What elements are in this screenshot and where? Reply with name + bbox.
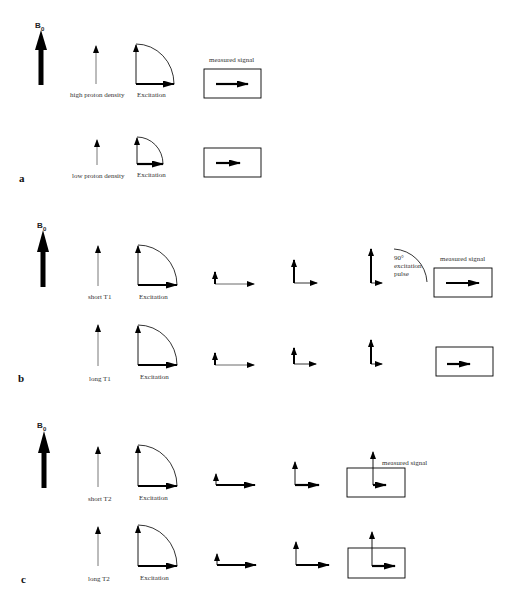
excitation-quarter-arc (138, 525, 177, 566)
row-short-t1: short T1 Excitation 90° exc (88, 245, 492, 301)
dephasing-step-1 (217, 554, 256, 565)
dephasing-step-2 (296, 542, 329, 565)
excitation-pulse-label: 90° excitation pulse (394, 254, 422, 278)
excitation-label: Excitation (140, 574, 169, 582)
signal-box (436, 347, 493, 376)
b0-field-arrow: B 0 (37, 421, 50, 488)
panel-c: B 0 short T2 Excitation (21, 421, 427, 585)
recovery-step-1 (215, 353, 254, 365)
b0-field-arrow: B 0 (35, 21, 47, 85)
panel-b: B 0 short T1 Excitation (18, 221, 493, 384)
signal-box (347, 468, 405, 497)
b0-field-arrow: B 0 (37, 221, 49, 287)
condition-label: short T1 (88, 293, 112, 301)
row-long-t2: long T2 Excitation (88, 525, 405, 583)
measured-signal-label: measured signal (382, 459, 427, 467)
condition-label: long T2 (88, 575, 110, 583)
recovery-step-2 (294, 348, 316, 364)
panel-label: b (18, 372, 24, 384)
excitation-quarter-arc (138, 445, 177, 486)
measured-signal-label: measured signal (440, 255, 485, 263)
recovery-step-1 (215, 272, 254, 284)
mri-contrast-diagram: B 0 high proton density Excitation measu… (0, 0, 508, 595)
b0-subscript: 0 (43, 426, 47, 432)
measured-signal-label: measured signal (209, 56, 254, 64)
pulse-label-line: 90° (394, 254, 404, 262)
excitation-quarter-arc (138, 245, 177, 285)
recovery-step-3 (371, 340, 382, 364)
excitation-label: Excitation (137, 171, 166, 179)
row-high-proton-density: high proton density Excitation measured … (70, 44, 261, 99)
excitation-label: Excitation (139, 293, 168, 301)
panel-label: a (19, 172, 25, 184)
b0-subscript: 0 (41, 26, 45, 32)
panel-a: B 0 high proton density Excitation measu… (19, 21, 261, 184)
condition-label: low proton density (72, 172, 125, 180)
row-long-t1: long T1 Excitation (89, 325, 493, 383)
excitation-quarter-arc (136, 44, 174, 84)
pulse-label-line: pulse (394, 270, 409, 278)
condition-label: high proton density (70, 91, 125, 99)
excitation-quarter-arc (138, 325, 177, 365)
row-short-t2: short T2 Excitation measured signal (88, 445, 427, 503)
condition-label: short T2 (88, 495, 112, 503)
row-low-proton-density: low proton density Excitation (72, 137, 261, 180)
panel-label: c (21, 573, 26, 585)
excitation-label: Excitation (137, 91, 166, 99)
condition-label: long T1 (89, 375, 111, 383)
pulse-label-line: excitation (394, 262, 422, 270)
recovery-step-3 (371, 249, 382, 283)
excitation-label: Excitation (139, 494, 168, 502)
dephasing-step-2 (295, 462, 319, 485)
recovery-step-2 (294, 260, 317, 283)
signal-box (348, 548, 405, 578)
b0-subscript: 0 (43, 226, 47, 232)
dephasing-step-1 (216, 474, 255, 485)
excitation-label: Excitation (140, 373, 169, 381)
excitation-quarter-arc (137, 137, 163, 164)
